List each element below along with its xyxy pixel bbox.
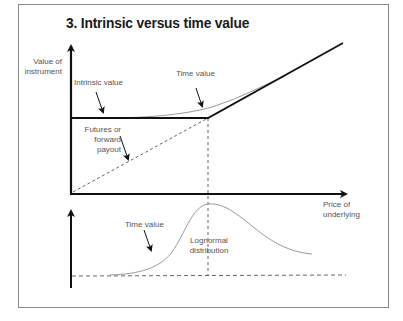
time-value-label-lower: Time value	[125, 220, 164, 230]
futures-arrow	[120, 136, 128, 159]
time-value-arrow-lower	[144, 230, 151, 250]
lognormal-distribution-label: Lognormal distribution	[186, 236, 232, 256]
intrinsic-value-arrow	[96, 92, 103, 112]
time-value-label-upper: Time value	[176, 69, 215, 79]
y-axis-label: Value of instrument	[25, 57, 62, 77]
x-axis-label: Price of underlying	[323, 200, 360, 220]
time-value-arrow-upper	[196, 88, 202, 106]
intrinsic-value-label: Intrinsic value	[74, 78, 123, 88]
option-value-diagram	[0, 0, 403, 321]
option-value-curve	[105, 76, 285, 118]
futures-payout-label: Futures or forward payout	[85, 125, 121, 155]
